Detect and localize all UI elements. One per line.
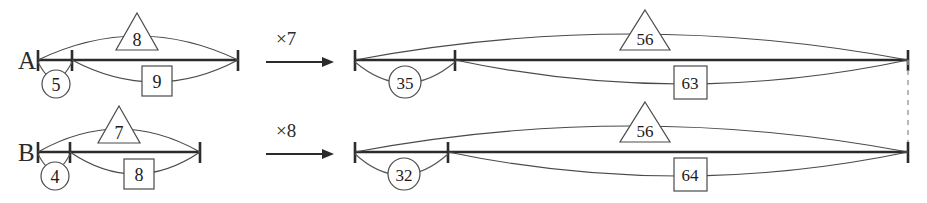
circle-badge-35: 35	[389, 66, 421, 98]
row-label-b: B	[18, 139, 35, 166]
row-b-left-diagram: 4 7 8	[38, 106, 200, 190]
circle-badge-value: 5	[52, 75, 61, 95]
triangle-badge-value: 8	[133, 30, 142, 50]
triangle-badge-value: 56	[637, 122, 654, 141]
square-badge-64: 64	[674, 158, 707, 191]
circle-badge-32: 32	[388, 158, 420, 190]
triangle-badge-7: 7	[98, 106, 140, 143]
triangle-badge-56: 56	[620, 10, 670, 50]
row-b-right-diagram: 32 56 64	[355, 102, 908, 191]
square-badge-9: 9	[142, 66, 172, 96]
circle-badge-value: 32	[396, 166, 413, 185]
row-a: A 5 8 9	[18, 10, 908, 99]
operator-label: ×7	[276, 28, 296, 49]
square-badge-value: 63	[682, 74, 699, 93]
triangle-badge-56: 56	[620, 102, 670, 142]
square-badge-63: 63	[674, 66, 707, 99]
row-label-a: A	[18, 47, 36, 74]
right-arrow-head-icon	[322, 57, 334, 67]
diagram-canvas: A 5 8 9	[0, 0, 927, 203]
row-b: B 4 7 8 ×8	[18, 102, 908, 191]
circle-badge-5: 5	[42, 70, 70, 98]
row-a-right-diagram: 35 56 63	[355, 10, 908, 99]
operator-label: ×8	[276, 120, 296, 141]
circle-badge-value: 35	[397, 74, 414, 93]
row-a-left-diagram: 5 8 9	[38, 13, 238, 98]
circle-badge-4: 4	[41, 162, 69, 190]
triangle-badge-8: 8	[116, 13, 158, 50]
row-b-operator: ×8	[266, 120, 334, 159]
square-badge-value: 64	[682, 166, 700, 185]
square-badge-8: 8	[124, 159, 154, 189]
triangle-badge-value: 7	[115, 123, 124, 143]
right-arrow-head-icon	[322, 149, 334, 159]
circle-badge-value: 4	[51, 167, 60, 187]
square-badge-value: 8	[135, 165, 144, 185]
square-badge-value: 9	[153, 72, 162, 92]
triangle-badge-value: 56	[637, 30, 654, 49]
row-a-operator: ×7	[266, 28, 334, 67]
